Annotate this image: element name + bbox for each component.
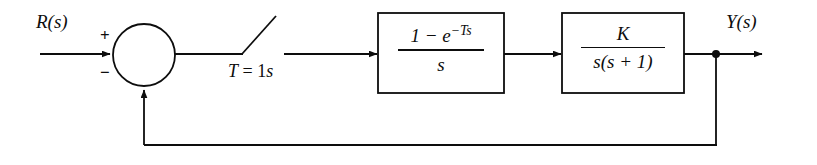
sampler-period-unit: s xyxy=(266,61,273,81)
plant-denominator: s(s + 1) xyxy=(562,50,684,73)
block-diagram: R(s) + − T = 1s 1 − e−Ts s K s(s + 1) Y(… xyxy=(0,0,817,165)
zero-order-hold-transfer-function: 1 − e−Ts s xyxy=(378,23,504,76)
zero-order-hold-denominator: s xyxy=(378,53,504,76)
zero-order-hold-numerator: 1 − e−Ts xyxy=(378,23,504,48)
sampler-switch-blade xyxy=(242,16,276,54)
sampler-period-label: T = 1s xyxy=(228,62,273,80)
summing-junction-minus-sign: − xyxy=(100,64,110,81)
zero-order-hold-exponent: −Ts xyxy=(451,23,472,38)
summing-junction-circle xyxy=(113,24,175,86)
zero-order-hold-fraction-bar xyxy=(398,49,484,51)
output-signal-label: Y(s) xyxy=(726,12,757,31)
summing-junction-plus-sign: + xyxy=(100,27,110,44)
plant-numerator: K xyxy=(562,23,684,46)
feedback-takeoff-dot xyxy=(712,50,720,58)
plant-fraction-bar xyxy=(581,47,665,49)
input-signal-label: R(s) xyxy=(36,12,68,31)
plant-transfer-function: K s(s + 1) xyxy=(562,23,684,73)
zero-order-hold-numerator-text: 1 − e xyxy=(410,25,450,46)
sampler-period-equals: = xyxy=(243,61,253,81)
sampler-period-symbol: T xyxy=(228,61,238,81)
sampler-period-value: 1 xyxy=(257,61,266,81)
